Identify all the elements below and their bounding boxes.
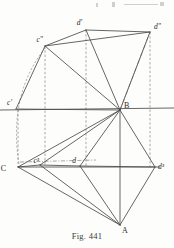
rabatment-arc-c [16, 48, 45, 164]
edge-c-triple-prime-to-d [40, 165, 80, 166]
point-label-C: C [1, 164, 6, 173]
dash-dot-auxiliary-group [20, 32, 150, 162]
point-label-d-prime: d' [77, 18, 83, 27]
point-label-d-triple-prime: d³ [158, 162, 165, 171]
dashed-projector-group [18, 30, 150, 167]
edge-c-triple-prime-to-A [40, 165, 120, 225]
point-label-c-prime: c' [7, 98, 12, 107]
geometry-figure: d'd"c"c'BCc³dd³A [0, 0, 174, 248]
point-labels-group: d'd"c"c'BCc³dd³A [1, 18, 165, 235]
rabatment-arc-group [16, 48, 45, 164]
figure-page: d'd"c"c'BCc³dd³A Fig. 441 [0, 0, 174, 248]
point-label-c-triple-prime: c³ [33, 156, 39, 165]
point-label-c-double-prime: c" [37, 35, 44, 44]
edge-d-prime-to-d-double-prime [86, 30, 150, 32]
point-label-d-double-prime: d" [154, 22, 162, 31]
axis-lines-group [0, 108, 174, 167]
edge-c-double-prime-to-d-double-prime [45, 32, 150, 46]
edge-c-prime-to-c-double-prime [16, 46, 45, 109]
edge-C-to-A [18, 167, 120, 225]
edge-d-prime-to-B [86, 30, 120, 110]
point-label-d: d [72, 156, 76, 165]
figure-caption: Fig. 441 [0, 231, 174, 241]
dash-dot-C-aux-to-c-triple [20, 160, 96, 162]
edge-d-triple-prime-to-A [120, 167, 155, 225]
edge-d-double-prime-to-B [120, 32, 150, 110]
point-label-B: B [124, 101, 129, 110]
edge-B-to-c-triple-prime [40, 110, 120, 165]
edge-d-to-A [80, 166, 120, 225]
edge-c-double-prime-to-B [45, 46, 120, 110]
